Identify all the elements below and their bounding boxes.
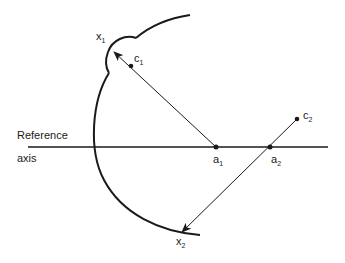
point-c1 (129, 64, 134, 69)
label-c1: c1 (134, 52, 144, 66)
label-c2: c2 (303, 109, 313, 123)
label-x1: x1 (96, 30, 106, 44)
curve-top-segment (136, 15, 190, 38)
vector-c2-to-x2 (182, 119, 297, 232)
point-a1 (214, 145, 219, 150)
point-c2 (295, 117, 300, 122)
axis-label-axis: axis (17, 152, 37, 164)
curve-main-arc (94, 73, 200, 235)
label-x2: x2 (176, 235, 186, 249)
label-a1: a1 (213, 153, 223, 167)
point-a2 (268, 145, 273, 150)
axis-label-reference: Reference (17, 129, 68, 141)
label-a2: a2 (271, 153, 281, 167)
diagram-canvas: Reference axis x1 c1 a1 a2 c2 x2 (0, 0, 345, 263)
